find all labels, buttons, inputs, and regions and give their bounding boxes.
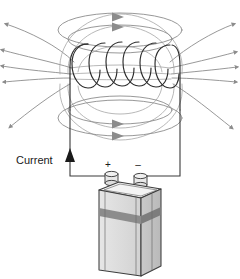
solenoid-field-diagram: Current + – [0, 0, 240, 279]
diagram-canvas: Current + – [0, 0, 240, 279]
battery-side-face [141, 189, 161, 276]
positive-sign-label: + [105, 159, 111, 170]
terminal-cap-positive [105, 171, 118, 176]
negative-sign-label: – [135, 159, 141, 170]
terminal-cap-negative [134, 173, 147, 178]
current-label: Current [16, 154, 53, 166]
